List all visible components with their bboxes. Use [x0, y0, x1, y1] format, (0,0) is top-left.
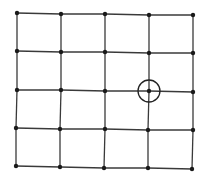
grid-node-dot [59, 88, 63, 92]
grid-node-dot [58, 127, 62, 131]
grid-node-dot [59, 50, 63, 54]
vertical-edge [148, 91, 149, 130]
grid-node-dot [58, 165, 62, 169]
horizontal-edge [16, 166, 60, 167]
grid-diagram [0, 0, 202, 178]
grid-node-dot [14, 164, 18, 168]
horizontal-edge [16, 128, 60, 129]
grid-node-dot [103, 12, 107, 16]
grid-node-dot [146, 166, 150, 170]
grid-node-dot [191, 13, 195, 17]
horizontal-edge [149, 91, 193, 92]
horizontal-edge [148, 168, 192, 169]
grid-node-dot [103, 127, 107, 131]
grid-node-dot [147, 51, 151, 55]
grid-node-dot [15, 88, 19, 92]
grid-node-dot [103, 89, 107, 93]
grid-node-dot [191, 128, 195, 132]
vertical-edge [104, 129, 105, 168]
grid-node-dot [147, 89, 151, 93]
horizontal-edge [17, 13, 61, 14]
grid-node-dot [147, 13, 151, 17]
horizontal-edge [60, 167, 104, 168]
grid-node-dot [14, 126, 18, 130]
grid-node-dot [190, 167, 194, 171]
horizontal-edge [105, 129, 148, 130]
grid-graph-svg [0, 0, 202, 178]
horizontal-edge [105, 14, 149, 15]
vertical-edge [60, 90, 61, 129]
vertical-edge [16, 90, 17, 128]
grid-node-dot [191, 90, 195, 94]
grid-node-dot [15, 11, 19, 15]
grid-node-dot [191, 51, 195, 55]
horizontal-edge [17, 51, 61, 52]
grid-node-dot [15, 49, 19, 53]
grid-node-dot [103, 50, 107, 54]
grid-node-dot [59, 12, 63, 16]
horizontal-edge [105, 52, 149, 53]
grid-node-dot [146, 128, 150, 132]
horizontal-edge [61, 90, 105, 91]
grid-node-dot [102, 166, 106, 170]
vertical-edge [192, 130, 193, 169]
